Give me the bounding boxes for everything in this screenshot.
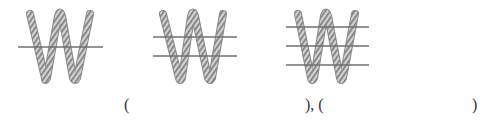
rope-w-figure-3 — [286, 13, 369, 81]
open-paren-1: ( — [124, 96, 129, 114]
answer-blanks: ( ), ( ) — [0, 96, 491, 118]
close-paren-2: ) — [472, 96, 477, 114]
rope-w-figure-2 — [153, 13, 237, 81]
rope-figures — [0, 0, 491, 96]
rope-w-figure-1 — [18, 13, 103, 81]
separator-parens: ), ( — [305, 96, 324, 114]
